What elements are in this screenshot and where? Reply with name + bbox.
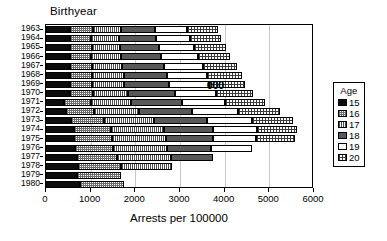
legend-item-age-18[interactable]: 18 — [338, 130, 360, 141]
bar-segment-age-19[interactable] — [213, 126, 258, 133]
bar-segment-age-17[interactable] — [92, 72, 124, 79]
bar-segment-age-17[interactable] — [113, 145, 167, 152]
bar-segment-age-15[interactable] — [46, 81, 70, 88]
legend-item-age-15[interactable]: 15 — [338, 97, 360, 108]
bar-segment-age-16[interactable] — [70, 81, 92, 88]
bar-segment-age-15[interactable] — [46, 108, 66, 115]
bar-segment-age-16[interactable] — [64, 99, 91, 106]
bar-segment-age-15[interactable] — [46, 135, 74, 142]
bar-segment-age-18[interactable] — [122, 63, 164, 70]
bar-segment-age-16[interactable] — [75, 145, 114, 152]
bar-segment-age-17[interactable] — [91, 35, 119, 42]
bar-segment-age-15[interactable] — [46, 44, 70, 51]
bar-segment-age-18[interactable] — [120, 44, 158, 51]
bar-segment-age-18[interactable] — [131, 99, 182, 106]
bar-segment-age-20[interactable] — [225, 99, 265, 106]
legend-item-age-17[interactable]: 17 — [338, 119, 360, 130]
bar-segment-age-20[interactable] — [216, 90, 253, 97]
bar-segment-age-19[interactable] — [182, 99, 225, 106]
bar-segment-age-20[interactable] — [187, 26, 217, 33]
bar-segment-age-19[interactable] — [167, 72, 206, 79]
bar-segment-age-20[interactable] — [203, 63, 237, 70]
bar-segment-age-19[interactable] — [213, 135, 257, 142]
bar-segment-age-16[interactable] — [70, 44, 92, 51]
bar-segment-age-18[interactable] — [124, 72, 167, 79]
bar-segment-age-15[interactable] — [46, 53, 70, 60]
legend-item-age-19[interactable]: 19 — [338, 141, 360, 152]
y-axis-tick-label: 1976 — [21, 143, 40, 152]
bar-segment-age-20[interactable] — [207, 72, 242, 79]
bar-segment-age-17[interactable] — [121, 163, 173, 170]
bar-segment-age-15[interactable] — [46, 145, 75, 152]
bar-segment-age-17[interactable] — [91, 53, 120, 60]
bar-segment-age-15[interactable] — [46, 117, 71, 124]
bar-segment-age-18[interactable] — [167, 145, 211, 152]
bar-segment-age-18[interactable] — [139, 108, 191, 115]
bar-segment-age-18[interactable] — [121, 53, 161, 60]
bar-segment-age-15[interactable] — [46, 90, 70, 97]
bar-segment-age-17[interactable] — [112, 135, 166, 142]
bar-segment-age-17[interactable] — [92, 63, 122, 70]
bar-segment-age-17[interactable] — [92, 81, 125, 88]
bar-segment-age-15[interactable] — [46, 35, 70, 42]
bar-segment-age-19[interactable] — [207, 117, 252, 124]
bar-segment-age-17[interactable] — [93, 90, 128, 97]
bar-segment-age-17[interactable] — [94, 108, 140, 115]
bar-segment-age-15[interactable] — [46, 126, 74, 133]
bar-segment-age-15[interactable] — [46, 181, 80, 188]
bar-segment-age-16[interactable] — [74, 126, 111, 133]
bar-segment-age-15[interactable] — [46, 172, 77, 179]
bar-segment-age-20[interactable] — [190, 35, 221, 42]
bar-segment-age-16[interactable] — [78, 163, 120, 170]
bar-segment-age-19[interactable] — [164, 63, 202, 70]
bar-segment-age-18[interactable] — [128, 90, 175, 97]
bar-segment-age-17[interactable] — [93, 26, 121, 33]
bar-segment-age-19[interactable] — [161, 53, 198, 60]
bar-segment-age-17[interactable] — [104, 117, 154, 124]
bar-segment-age-18[interactable] — [121, 26, 155, 33]
bar-segment-age-17[interactable] — [117, 154, 171, 161]
bar-segment-age-20[interactable] — [256, 135, 294, 142]
bar-segment-age-20[interactable] — [252, 117, 294, 124]
bar-segment-age-16[interactable] — [77, 172, 122, 179]
bar-segment-age-19[interactable] — [159, 44, 195, 51]
bar-segment-age-16[interactable] — [80, 181, 124, 188]
bar-segment-age-20[interactable] — [257, 126, 297, 133]
bar-segment-age-16[interactable] — [66, 108, 94, 115]
bar-segment-age-15[interactable] — [46, 163, 78, 170]
bar-segment-age-17[interactable] — [111, 126, 165, 133]
bar-segment-age-18[interactable] — [154, 117, 207, 124]
bar-segment-age-19[interactable] — [211, 145, 252, 152]
bar-segment-age-19[interactable] — [155, 26, 187, 33]
bar-segment-age-16[interactable] — [70, 53, 91, 60]
bar-segment-age-19[interactable] — [192, 108, 238, 115]
bar-segment-age-15[interactable] — [46, 99, 64, 106]
bar-segment-age-18[interactable] — [124, 81, 169, 88]
bar-segment-age-17[interactable] — [92, 44, 121, 51]
bar-segment-age-17[interactable] — [91, 99, 131, 106]
bar-segment-age-18[interactable] — [171, 154, 213, 161]
bar-segment-age-18[interactable] — [164, 126, 212, 133]
bar-segment-age-20[interactable] — [198, 53, 231, 60]
bar-segment-age-16[interactable] — [70, 35, 91, 42]
bar-segment-age-16[interactable] — [77, 154, 117, 161]
bar-segment-age-16[interactable] — [70, 90, 93, 97]
bar-segment-age-20[interactable] — [238, 108, 280, 115]
bar-segment-age-19[interactable] — [156, 35, 190, 42]
bar-segment-age-16[interactable] — [70, 63, 92, 70]
bar-segment-age-16[interactable] — [71, 117, 104, 124]
bar-segment-age-19[interactable] — [175, 90, 216, 97]
bar-segment-age-18[interactable] — [166, 135, 212, 142]
bar-segment-age-19[interactable] — [169, 81, 209, 88]
bar-segment-age-16[interactable] — [70, 26, 94, 33]
bar-segment-age-18[interactable] — [119, 35, 156, 42]
bar-segment-age-15[interactable] — [46, 154, 77, 161]
bar-segment-age-15[interactable] — [46, 26, 70, 33]
bar-segment-age-20[interactable] — [194, 44, 226, 51]
bar-segment-age-16[interactable] — [74, 135, 112, 142]
legend-item-age-20[interactable]: 20 — [338, 152, 360, 163]
bar-segment-age-15[interactable] — [46, 72, 70, 79]
bar-segment-age-15[interactable] — [46, 63, 70, 70]
legend-item-age-16[interactable]: 16 — [338, 108, 360, 119]
bar-segment-age-16[interactable] — [70, 72, 92, 79]
